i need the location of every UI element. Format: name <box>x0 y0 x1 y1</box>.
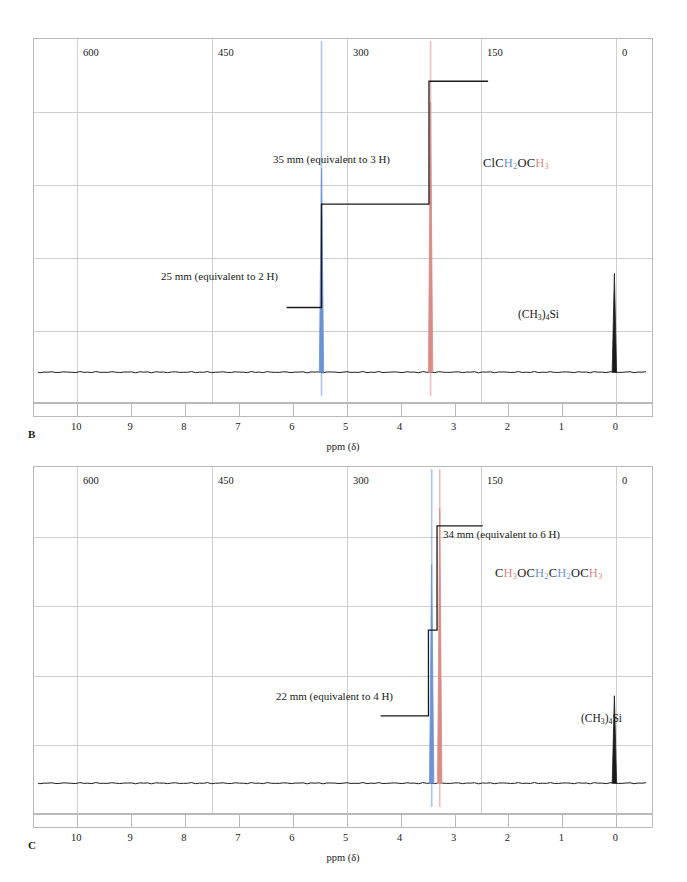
ppm-tick-label: 9 <box>127 832 132 843</box>
integral-label-low: 22 mm (equivalent to 4 H) <box>276 690 393 702</box>
ppm-tick <box>77 815 78 827</box>
peak-tms <box>612 273 616 372</box>
panel-c: 900 Hz7506004503001500 C 109876543210ppm… <box>0 450 687 882</box>
spectrum-plot-b: 900 Hz7506004503001500 <box>34 39 652 402</box>
peak-ch2 <box>429 565 433 784</box>
spectrum-frame-c: 900 Hz7506004503001500 <box>33 466 653 814</box>
ppm-tick-label: 4 <box>397 832 402 843</box>
ppm-tick <box>185 404 186 416</box>
chemical-structure-label: CH3OCH2CH2OCH3 <box>495 566 602 581</box>
chemical-structure-label: ClCH2OCH3 <box>483 156 549 171</box>
ppm-tick <box>401 404 402 416</box>
spectrum-trace <box>34 467 652 813</box>
ppm-tick <box>293 815 294 827</box>
ppm-tick-label: 1 <box>559 421 564 432</box>
tms-label: (CH3)4Si <box>581 712 622 726</box>
panel-letter-b: B <box>28 428 35 440</box>
ppm-tick-label: 9 <box>127 421 132 432</box>
ppm-tick <box>239 815 240 827</box>
ppm-tick-label: 8 <box>181 421 186 432</box>
ppm-tick-label: 7 <box>235 421 240 432</box>
ppm-tick-label: 1 <box>559 832 564 843</box>
ppm-tick-label: 5 <box>343 832 348 843</box>
ppm-tick-label: 6 <box>289 421 294 432</box>
spectrum-trace <box>34 39 652 402</box>
ppm-tick <box>562 815 563 827</box>
spectrum-frame-b: 900 Hz7506004503001500 <box>33 38 653 403</box>
x-axis-title: ppm (δ) <box>326 852 359 863</box>
ppm-tick-label: 5 <box>343 421 348 432</box>
ppm-tick <box>508 404 509 416</box>
ppm-tick-label: 0 <box>613 832 618 843</box>
ppm-axis-strip-b <box>33 403 653 417</box>
integral-label-high: 35 mm (equivalent to 3 H) <box>273 153 390 165</box>
ppm-tick <box>131 815 132 827</box>
integral-curve <box>287 81 489 307</box>
ppm-tick <box>508 815 509 827</box>
tms-label: (CH3)4Si <box>518 308 559 322</box>
ppm-tick <box>347 815 348 827</box>
panel-letter-c: C <box>28 839 36 851</box>
baseline <box>38 371 646 372</box>
integral-label-low: 25 mm (equivalent to 2 H) <box>161 270 278 282</box>
peak-ch3 <box>438 508 442 783</box>
ppm-tick <box>455 815 456 827</box>
ppm-axis-strip-c <box>33 814 653 828</box>
ppm-tick-label: 3 <box>451 421 456 432</box>
panel-b: 900 Hz7506004503001500 B 109876543210ppm… <box>0 0 687 450</box>
ppm-tick <box>616 815 617 827</box>
ppm-tick-label: 7 <box>235 832 240 843</box>
ppm-tick <box>401 815 402 827</box>
ppm-tick <box>131 404 132 416</box>
integral-label-high: 34 mm (equivalent to 6 H) <box>443 528 560 540</box>
ppm-tick <box>347 404 348 416</box>
ppm-tick-label: 10 <box>71 421 82 432</box>
peak-tms <box>612 696 616 783</box>
ppm-tick <box>562 404 563 416</box>
spectrum-plot-c: 900 Hz7506004503001500 <box>34 467 652 813</box>
ppm-tick <box>185 815 186 827</box>
baseline <box>38 782 646 783</box>
ppm-tick-label: 3 <box>451 832 456 843</box>
ppm-tick-label: 2 <box>505 421 510 432</box>
ppm-tick <box>455 404 456 416</box>
ppm-tick <box>77 404 78 416</box>
ppm-tick <box>293 404 294 416</box>
ppm-tick-label: 2 <box>505 832 510 843</box>
ppm-tick-label: 6 <box>289 832 294 843</box>
ppm-tick-label: 10 <box>71 832 82 843</box>
ppm-tick-label: 4 <box>397 421 402 432</box>
ppm-tick <box>239 404 240 416</box>
ppm-tick <box>616 404 617 416</box>
ppm-tick-label: 8 <box>181 832 186 843</box>
ppm-tick-label: 0 <box>613 421 618 432</box>
